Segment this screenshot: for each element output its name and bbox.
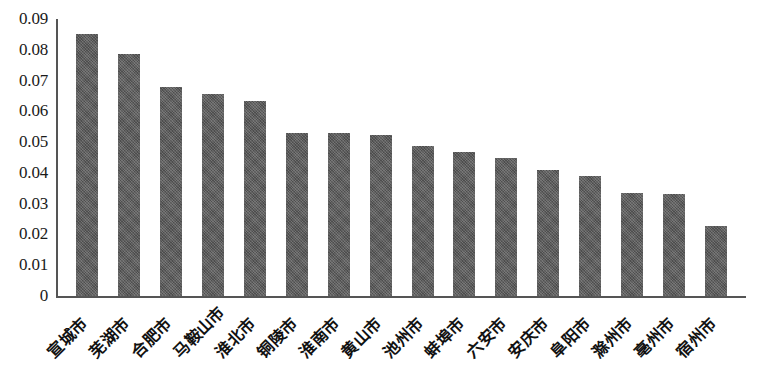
x-tick-label: 阜阳市 <box>548 315 595 362</box>
y-tick-label: 0.08 <box>0 41 48 58</box>
x-tick-label: 池州市 <box>380 315 427 362</box>
x-tick-label: 宣城市 <box>45 315 92 362</box>
y-tick-label: 0.07 <box>0 72 48 89</box>
x-tick-label: 芜湖市 <box>86 315 133 362</box>
bar <box>244 101 266 296</box>
bar <box>202 94 224 296</box>
bar <box>579 176 601 296</box>
x-tick-label: 合肥市 <box>128 315 175 362</box>
bar <box>370 135 392 296</box>
x-axis: 宣城市芜湖市合肥市马鞍山市淮北市铜陵市淮南市黄山市池州市蚌埠市六安市安庆市阜阳市… <box>56 298 756 382</box>
plot-area <box>56 19 746 297</box>
bar <box>453 152 475 296</box>
bar <box>705 226 727 296</box>
y-tick-label: 0.02 <box>0 225 48 242</box>
x-tick-label: 安庆市 <box>506 315 553 362</box>
bar <box>495 158 517 296</box>
bar <box>286 133 308 296</box>
y-tick-label: 0.05 <box>0 133 48 150</box>
bar <box>118 54 140 296</box>
y-tick-label: 0.03 <box>0 195 48 212</box>
y-tick-label: 0.09 <box>0 10 48 27</box>
x-tick-label: 淮南市 <box>296 315 343 362</box>
bar <box>663 194 685 296</box>
y-tick-label: 0 <box>0 287 48 304</box>
x-tick-label: 亳州市 <box>632 315 679 362</box>
bar <box>76 34 98 296</box>
x-tick-label: 蚌埠市 <box>422 315 469 362</box>
bar <box>328 133 350 296</box>
bar <box>160 87 182 296</box>
bar <box>621 193 643 296</box>
x-tick-label: 六安市 <box>464 315 511 362</box>
bars-layer <box>56 19 746 296</box>
y-tick-label: 0.06 <box>0 102 48 119</box>
bar <box>412 146 434 296</box>
y-axis: 00.010.020.030.040.050.060.070.080.09 <box>0 0 48 310</box>
x-tick-label: 黄山市 <box>338 315 385 362</box>
y-tick-label: 0.01 <box>0 256 48 273</box>
x-tick-label: 滁州市 <box>590 315 637 362</box>
y-tick-label: 0.04 <box>0 164 48 181</box>
x-tick-label: 宿州市 <box>674 315 721 362</box>
bar-chart: 00.010.020.030.040.050.060.070.080.09 宣城… <box>0 0 759 382</box>
bar <box>537 170 559 296</box>
x-tick-label: 铜陵市 <box>254 315 301 362</box>
